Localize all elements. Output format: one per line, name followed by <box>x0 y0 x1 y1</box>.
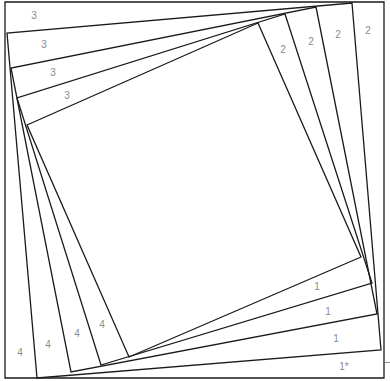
edge-tick-mark <box>385 362 390 363</box>
square-ring-2 <box>11 7 377 372</box>
section-label-4: 4 <box>99 320 105 330</box>
section-label-3: 3 <box>31 11 37 21</box>
square-ring-3 <box>17 14 372 365</box>
section-label-3: 3 <box>50 68 56 78</box>
section-label-2: 2 <box>365 26 371 36</box>
section-label-1: 1 <box>314 282 320 292</box>
section-label-4: 4 <box>45 340 51 350</box>
section-label-1-star: 1* <box>339 362 348 372</box>
section-label-2: 2 <box>280 45 286 55</box>
section-label-4: 4 <box>17 348 23 358</box>
section-label-2: 2 <box>308 37 314 47</box>
twisted-squares-diagram <box>0 0 390 381</box>
square-ring-1 <box>7 3 381 378</box>
section-label-1: 1 <box>325 307 331 317</box>
section-label-4: 4 <box>74 329 80 339</box>
center-square <box>27 23 361 357</box>
section-label-3: 3 <box>41 40 47 50</box>
section-label-3: 3 <box>64 91 70 101</box>
section-label-2: 2 <box>335 30 341 40</box>
section-label-1: 1 <box>333 334 339 344</box>
